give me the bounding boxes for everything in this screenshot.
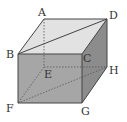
vertex-label-c: C	[83, 52, 91, 65]
vertex-label-d: D	[109, 9, 118, 22]
vertex-label-b: B	[6, 48, 14, 61]
vertex-label-e: E	[44, 68, 52, 81]
vertex-label-f: F	[6, 102, 14, 115]
vertex-label-h: H	[109, 64, 119, 77]
vertex-label-g: G	[81, 105, 90, 118]
cube-diagram: A B C D E F G H	[0, 0, 127, 122]
vertex-label-a: A	[37, 6, 47, 19]
